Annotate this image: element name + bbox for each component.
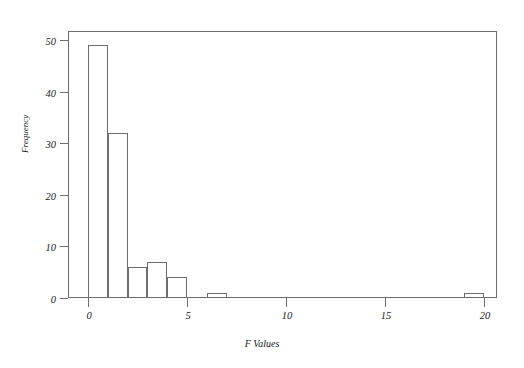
- x-axis-tick: 10: [286, 298, 287, 307]
- y-axis-tick: 0: [60, 298, 68, 299]
- y-axis-tick-label: 30: [46, 139, 57, 150]
- y-axis-title: Frequency: [20, 139, 30, 153]
- y-axis-tick-label: 40: [46, 87, 57, 98]
- y-axis-tick: 50: [60, 40, 68, 41]
- x-axis-tick-label: 0: [86, 310, 91, 321]
- y-axis-tick-label: 50: [46, 36, 57, 47]
- y-axis-tick: 40: [60, 92, 68, 93]
- x-axis-tick: 0: [88, 298, 89, 307]
- plot-area-frame: [68, 31, 497, 298]
- y-axis-tick-label: 0: [51, 294, 56, 305]
- x-axis-tick-label: 20: [480, 310, 491, 321]
- y-axis-tick-label: 10: [46, 242, 57, 253]
- y-axis-tick: 20: [60, 195, 68, 196]
- y-axis-tick: 30: [60, 143, 68, 144]
- x-axis-tick: 20: [484, 298, 485, 307]
- x-axis-title: F Values: [0, 338, 524, 349]
- x-axis-tick-label: 10: [282, 310, 293, 321]
- x-axis-tick: 15: [385, 298, 386, 307]
- histogram-figure: 01020304050 05101520 Frequency F Values: [0, 0, 524, 368]
- y-axis-tick: 10: [60, 246, 68, 247]
- x-axis-tick-label: 15: [381, 310, 392, 321]
- y-axis-tick-label: 20: [46, 190, 57, 201]
- x-axis-tick-label: 5: [185, 310, 190, 321]
- x-axis-tick: 5: [187, 298, 188, 307]
